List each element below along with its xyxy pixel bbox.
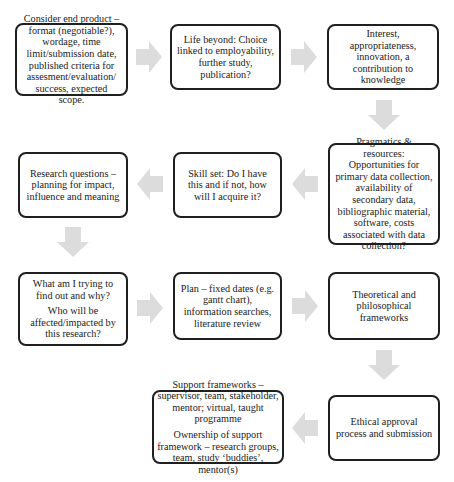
arrow-right-icon: [136, 41, 162, 73]
step-interest: Interest, appropriateness, innovation, a…: [327, 24, 439, 90]
step-life-beyond: Life beyond: Choice linked to employabil…: [170, 24, 281, 90]
step-end-product: Consider end product – format (negotiabl…: [15, 23, 128, 96]
arrow-left-icon: [137, 168, 163, 200]
step-text: Ownership of support framework – researc…: [157, 429, 279, 475]
step-text: Ethical approval process and submission: [335, 416, 433, 439]
step-plan: Plan – fixed dates (e.g. gantt chart), i…: [173, 272, 282, 340]
step-text: Plan – fixed dates (e.g. gantt chart), i…: [180, 283, 275, 329]
arrow-down-icon: [368, 100, 400, 130]
step-text: Theoretical and philosophical frameworks: [335, 289, 433, 324]
arrow-right-icon: [291, 41, 317, 73]
step-text: Pragmatics & resources: Opportunities fo…: [335, 136, 433, 252]
step-text: Who will be affected/impacted by this re…: [25, 305, 121, 340]
step-pragmatics: Pragmatics & resources: Opportunities fo…: [328, 143, 440, 245]
step-frameworks: Theoretical and philosophical frameworks: [328, 272, 440, 340]
arrow-left-icon: [292, 412, 318, 444]
arrow-down-icon: [368, 350, 400, 380]
step-text: Research questions – planning for impact…: [25, 168, 121, 203]
step-skill-set: Skill set: Do I have this and if not, ho…: [173, 152, 282, 218]
step-research-questions: Research questions – planning for impact…: [18, 152, 128, 218]
step-text: Support frameworks – supervisor, team, s…: [157, 379, 279, 425]
step-text: Life beyond: Choice linked to employabil…: [177, 34, 274, 80]
arrow-left-icon: [292, 168, 318, 200]
step-what-why: What am I trying to find out and why? Wh…: [18, 272, 128, 346]
step-text: What am I trying to find out and why?: [25, 278, 121, 301]
step-support: Support frameworks – supervisor, team, s…: [152, 390, 284, 464]
arrow-right-icon: [137, 292, 163, 324]
step-text: Interest, appropriateness, innovation, a…: [334, 28, 432, 86]
arrow-down-icon: [57, 227, 89, 257]
arrow-right-icon: [292, 290, 318, 322]
step-text: Consider end product – format (negotiabl…: [22, 13, 121, 106]
step-text: Skill set: Do I have this and if not, ho…: [180, 168, 275, 203]
step-ethical: Ethical approval process and submission: [328, 395, 440, 461]
